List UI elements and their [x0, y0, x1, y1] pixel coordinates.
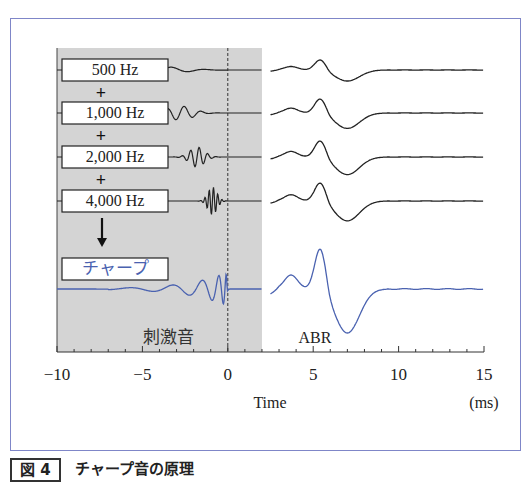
caption-title: チャープ音の原理: [75, 458, 194, 480]
caption-number: 図 4: [10, 458, 61, 482]
figure-frame: [10, 18, 521, 451]
figure-caption: 図 4 チャープ音の原理: [10, 458, 194, 482]
